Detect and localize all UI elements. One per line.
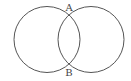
- point-label-b: B: [65, 67, 72, 78]
- venn-diagram: A B: [0, 0, 131, 81]
- left-circle: [14, 7, 80, 73]
- point-label-a: A: [64, 2, 73, 13]
- right-circle: [58, 7, 124, 73]
